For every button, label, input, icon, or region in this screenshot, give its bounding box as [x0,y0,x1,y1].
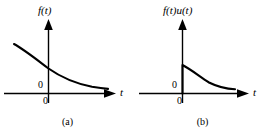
panel-b: f(t)u(t) t 0 0 (b) [135,0,270,135]
panel-a-horizontal-axis-label: t [120,87,123,98]
panel-b-horizontal-axis [139,89,249,98]
panel-a-origin-label-below: 0 [43,96,48,106]
panel-a: f(t) t 0 0 (a) [0,0,135,135]
panel-b-plot [135,0,271,135]
panel-a-curve [14,44,108,89]
panel-a-vertical-axis-label: f(t) [38,5,51,16]
panel-a-origin-label-left: 0 [38,80,43,90]
panel-b-origin-label-below: 0 [177,96,182,106]
figure-container: f(t) t 0 0 (a) f(t)u(t) t 0 0 (b) [0,0,271,135]
panel-a-horizontal-axis [4,89,116,98]
panel-b-origin-label-left: 0 [172,80,177,90]
panel-a-vertical-axis [44,19,53,103]
panel-b-curve [183,65,236,94]
panel-b-horizontal-axis-label: t [253,87,256,98]
panel-b-vertical-axis-label: f(t)u(t) [163,5,192,16]
panel-a-plot [0,0,135,135]
panel-a-caption: (a) [0,117,135,127]
panel-b-caption: (b) [135,117,270,127]
